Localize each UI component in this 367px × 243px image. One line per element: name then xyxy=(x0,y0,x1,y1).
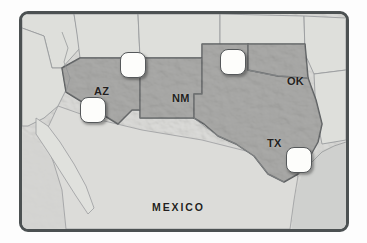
map-layers xyxy=(22,14,346,229)
map-frame: AZ NM OK TX MEXICO xyxy=(19,11,349,232)
map-figure: AZ NM OK TX MEXICO xyxy=(0,0,367,243)
map-marker-4[interactable] xyxy=(286,147,312,173)
map-marker-1[interactable] xyxy=(120,52,146,78)
state-missouri-arkansas xyxy=(304,16,346,74)
state-label-nm: NM xyxy=(172,93,190,104)
map-marker-2[interactable] xyxy=(80,97,106,123)
country-label-mexico: MEXICO xyxy=(152,202,205,213)
state-label-tx: TX xyxy=(267,138,281,149)
map-marker-3[interactable] xyxy=(220,49,246,75)
state-label-ok: OK xyxy=(287,76,304,87)
state-label-az: AZ xyxy=(94,86,109,97)
map-canvas xyxy=(22,14,346,229)
